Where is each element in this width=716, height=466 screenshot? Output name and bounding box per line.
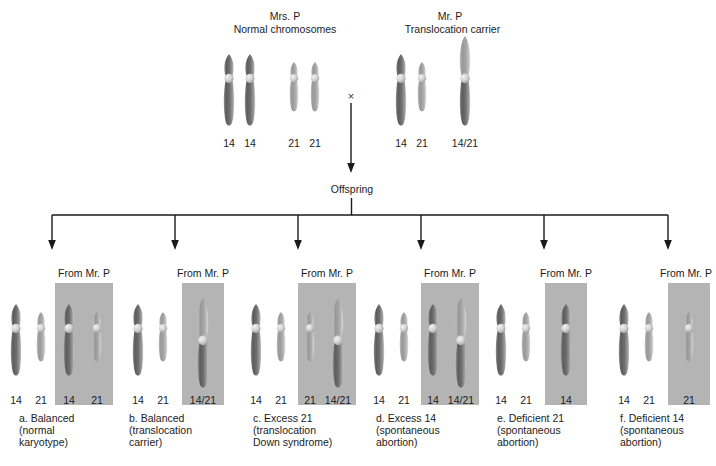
offspring-a-chr-label-f1: 21 <box>84 395 110 406</box>
offspring-f-chr-label-m0: 14 <box>611 395 637 406</box>
father-status: Translocation carrier <box>360 23 545 35</box>
from-father-label-a: From Mr. P <box>53 267 115 279</box>
offspring-chromosomes-a <box>0 295 120 400</box>
offspring-f-chr-label-m1: 21 <box>636 395 662 406</box>
from-father-label-f: From Mr. P <box>655 267 716 279</box>
father-name: Mr. P <box>370 10 530 22</box>
mother-name: Mrs. P <box>205 10 365 22</box>
offspring-caption-c: c. Excess 21 (translocation Down syndrom… <box>253 412 378 449</box>
offspring-branch-tree <box>0 198 716 254</box>
offspring-b-chr-label-m1: 21 <box>150 395 176 406</box>
offspring-d-chr-label-m0: 14 <box>366 395 392 406</box>
mother-chr-label-3: 21 <box>301 138 329 149</box>
offspring-c-chr-label-m0: 14 <box>243 395 269 406</box>
mother-status: Normal chromosomes <box>185 23 385 35</box>
father-chr-label-1: 21 <box>408 138 436 149</box>
offspring-caption-e: e. Deficient 21 (spontaneous abortion) <box>497 412 617 449</box>
offspring-d-chr-label-f1: 14/21 <box>442 395 480 406</box>
offspring-label: Offspring <box>326 183 378 195</box>
cross-symbol: × <box>345 90 357 102</box>
offspring-chromosomes-d <box>363 295 483 400</box>
offspring-e-chr-label-m0: 14 <box>488 395 514 406</box>
offspring-chromosomes-c <box>240 295 360 400</box>
offspring-e-chr-label-f0: 14 <box>553 395 579 406</box>
offspring-c-chr-label-m1: 21 <box>268 395 294 406</box>
offspring-e-chr-label-m1: 21 <box>513 395 539 406</box>
arrow-to-offspring <box>344 103 358 175</box>
offspring-a-chr-label-f0: 14 <box>56 395 82 406</box>
offspring-b-chr-label-m0: 14 <box>125 395 151 406</box>
from-father-label-d: From Mr. P <box>419 267 481 279</box>
father-chr-label-2: 14/21 <box>446 138 484 149</box>
offspring-d-chr-label-m1: 21 <box>391 395 417 406</box>
offspring-c-chr-label-f1: 14/21 <box>319 395 357 406</box>
offspring-caption-b: b. Balanced (translocation carrier) <box>129 412 249 449</box>
offspring-chromosomes-b <box>122 295 232 400</box>
mother-chr-label-1: 14 <box>236 138 264 149</box>
offspring-caption-d: d. Excess 14 (spontaneous abortion) <box>376 412 496 449</box>
offspring-caption-a: a. Balanced (normal karyotype) <box>19 412 134 449</box>
from-father-label-e: From Mr. P <box>535 267 597 279</box>
offspring-a-chr-label-m1: 21 <box>28 395 54 406</box>
from-father-label-c: From Mr. P <box>296 267 358 279</box>
offspring-a-chr-label-m0: 14 <box>3 395 29 406</box>
from-father-label-b: From Mr. P <box>172 267 234 279</box>
offspring-chromosomes-e <box>485 295 595 400</box>
offspring-chromosomes-f <box>608 295 716 400</box>
offspring-b-chr-label-f0: 14/21 <box>184 395 222 406</box>
offspring-f-chr-label-f0: 21 <box>676 395 702 406</box>
offspring-caption-f: f. Deficient 14 (spontaneous abortion) <box>620 412 716 449</box>
